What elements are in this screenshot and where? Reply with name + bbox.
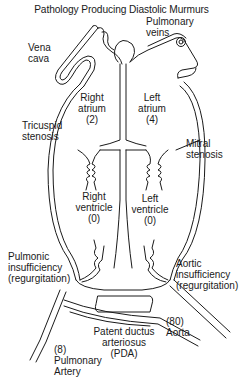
semilunar-valves [80,240,168,282]
diagram-title: Pathology Producing Diastolic Murmurs [0,4,243,15]
label-right-ventricle: Right ventricle (0) [74,191,114,224]
right-heart-outline [48,28,122,280]
label-pulmonary-artery: (8) Pulmonary Artery [54,344,102,377]
label-aortic-insufficiency: Aortic insufficiency (regurgitation) [176,258,238,291]
label-mitral-stenosis: Mitral stenosis [186,138,223,160]
label-aorta: (80) Aorta [166,316,190,338]
septum [100,40,146,268]
label-pulmonary-veins: Pulmonary veins [146,16,194,38]
label-tricuspid-stenosis: Tricuspid stenosis [22,120,62,142]
label-right-atrium: Right atrium (2) [72,92,112,125]
label-left-atrium: Left atrium (4) [132,92,172,125]
valve-coils [78,140,200,190]
vena-cava-drawing [55,25,98,86]
label-vena-cava: Vena cava [28,42,51,64]
label-left-ventricle: Left ventricle (0) [130,193,170,226]
label-pulmonic-insufficiency: Pulmonic insufficiency (regurgitation) [8,251,70,284]
